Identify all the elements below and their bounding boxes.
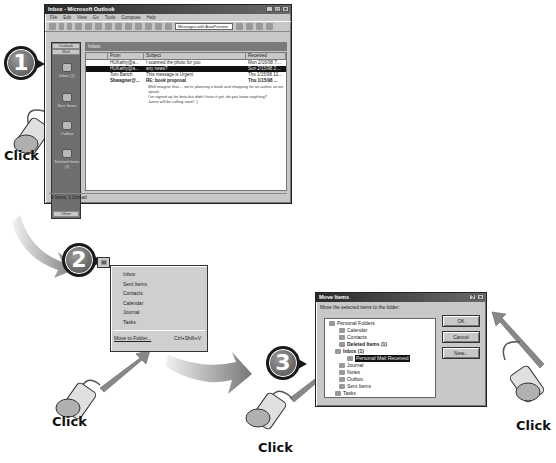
journal-icon	[339, 363, 345, 368]
shortcut-sent-items[interactable]: Sent Items	[52, 93, 82, 108]
menu-file[interactable]: File	[50, 14, 57, 21]
column-from[interactable]: From	[108, 53, 144, 59]
click-label: Click	[258, 440, 293, 455]
click-label: Click	[4, 148, 39, 163]
outlook-window: Inbox - Microsoft Outlook _ □ × File Edi…	[44, 4, 292, 204]
mouse-click-icon	[503, 342, 545, 404]
click-label: Click	[52, 414, 87, 429]
sent-items-icon	[62, 93, 72, 102]
tree-node-outbox[interactable]: Outbox	[339, 376, 363, 383]
mouse-click-icon	[246, 391, 292, 430]
delete-icon[interactable]	[125, 23, 132, 30]
up-folder-icon[interactable]	[75, 23, 82, 30]
contacts-icon	[339, 335, 345, 340]
minimize-button[interactable]: _	[266, 6, 273, 12]
view-dropdown-icon[interactable]	[236, 23, 243, 30]
tree-node-deleted-items[interactable]: Deleted Items (1)	[339, 341, 387, 348]
menu-item-move-to-folder[interactable]: Move to Folder... Ctrl+Shift+V	[111, 334, 207, 343]
menu-item-calendar[interactable]: Calendar	[111, 299, 207, 309]
menu-view[interactable]: View	[77, 14, 87, 21]
tree-node-inbox[interactable]: Inbox (1)	[335, 348, 364, 355]
shortcut-outbox[interactable]: Outbox	[52, 121, 82, 136]
move-to-folder-shortcut: Ctrl+Shift+V	[174, 334, 201, 343]
message-list: From Subject Received HUKathy@a... I sca…	[85, 52, 287, 191]
tree-node-tasks[interactable]: Tasks	[335, 390, 356, 397]
shortcut-deleted-items[interactable]: Deleted Items (1)	[52, 149, 82, 169]
move-to-folder-icon[interactable]	[115, 23, 122, 30]
menu-compose[interactable]: Compose	[121, 14, 140, 21]
folder-banner: Inbox	[85, 42, 287, 51]
reply-icon[interactable]	[135, 23, 142, 30]
inbox-icon	[62, 63, 72, 72]
tree-node-personal-folders[interactable]: Personal Folders	[329, 320, 375, 327]
outbox-icon	[339, 377, 345, 382]
print-preview-icon[interactable]	[105, 23, 112, 30]
dialog-title: Move Items	[319, 294, 349, 300]
find-items-icon[interactable]	[246, 23, 253, 30]
move-to-folder-label: Move to Folder...	[114, 334, 151, 343]
column-headers: From Subject Received	[86, 53, 286, 60]
maximize-button[interactable]: □	[274, 6, 281, 12]
column-subject[interactable]: Subject	[144, 53, 246, 59]
close-button[interactable]: ×	[477, 294, 484, 300]
close-button[interactable]: ×	[282, 6, 289, 12]
tree-node-calendar[interactable]: Calendar	[339, 327, 367, 334]
help-button[interactable]: ?	[469, 294, 476, 300]
menu-item-sent-items[interactable]: Sent Items	[111, 280, 207, 290]
folder-icon	[347, 356, 353, 361]
click-label: Click	[516, 418, 551, 433]
address-book-icon[interactable]	[165, 23, 172, 30]
move-items-dialog: Move Items ? × Move the selected items t…	[315, 292, 487, 407]
toolbar: Messages with AutoPreview	[45, 21, 291, 32]
menu-edit[interactable]: Edit	[63, 14, 71, 21]
column-received[interactable]: Received	[246, 53, 286, 59]
inbox-icon	[335, 349, 341, 354]
calendar-icon	[339, 328, 345, 333]
menu-help[interactable]: Help	[147, 14, 156, 21]
new-mail-icon[interactable]	[49, 23, 56, 30]
step-badge-1: 1	[4, 46, 38, 80]
outbox-icon	[62, 121, 72, 130]
dialog-title-bar: Move Items ? ×	[316, 293, 486, 302]
menu-tools[interactable]: Tools	[105, 14, 116, 21]
sent-items-icon	[339, 384, 345, 389]
menu-item-contacts[interactable]: Contacts	[111, 289, 207, 299]
forward-icon[interactable]	[67, 23, 72, 30]
organize-icon[interactable]	[256, 23, 263, 30]
back-icon[interactable]	[59, 23, 64, 30]
print-icon[interactable]	[95, 23, 102, 30]
menu-bar: File Edit View Go Tools Compose Help	[45, 14, 291, 21]
tree-node-journal[interactable]: Journal	[339, 362, 363, 369]
dialog-prompt: Move the selected items to the folder:	[316, 302, 486, 313]
trash-icon	[62, 149, 72, 158]
step-badge-2: 2	[62, 243, 96, 277]
personal-folders-icon	[329, 321, 335, 326]
menu-item-inbox[interactable]: Inbox	[111, 270, 207, 280]
tree-node-personal-mail-received[interactable]: Personal Mail Received	[347, 355, 410, 362]
other-group-button[interactable]: Other	[53, 211, 79, 217]
forward-mail-icon[interactable]	[155, 23, 162, 30]
menu-item-tasks[interactable]: Tasks	[111, 318, 207, 328]
tree-node-contacts[interactable]: Contacts	[339, 334, 367, 341]
tree-node-sent-items[interactable]: Sent Items	[339, 383, 371, 390]
column-icons[interactable]	[86, 53, 108, 59]
menu-go[interactable]: Go	[93, 14, 99, 21]
folder-list-icon[interactable]	[85, 23, 92, 30]
move-to-folder-toolbar-button[interactable]: ▤	[97, 257, 110, 268]
office-assistant-icon[interactable]	[266, 23, 273, 30]
window-title: Inbox - Microsoft Outlook	[48, 6, 115, 12]
mail-group-header[interactable]: Mail	[52, 49, 80, 55]
menu-separator	[113, 330, 205, 331]
ok-button[interactable]: OK	[442, 315, 480, 327]
menu-item-journal[interactable]: Journal	[111, 308, 207, 318]
status-bar: 4 Items, 1 Unread	[49, 193, 287, 201]
shortcut-inbox[interactable]: Inbox (1)	[52, 63, 82, 78]
new-folder-button[interactable]: New...	[442, 347, 480, 359]
current-view-select[interactable]: Messages with AutoPreview	[175, 23, 233, 30]
notes-icon	[339, 370, 345, 375]
reply-all-icon[interactable]	[145, 23, 152, 30]
folder-move-icon: ▤	[101, 259, 107, 265]
cancel-button[interactable]: Cancel	[442, 331, 480, 343]
step-badge-3: 3	[266, 346, 300, 380]
tree-node-notes[interactable]: Notes	[339, 369, 360, 376]
